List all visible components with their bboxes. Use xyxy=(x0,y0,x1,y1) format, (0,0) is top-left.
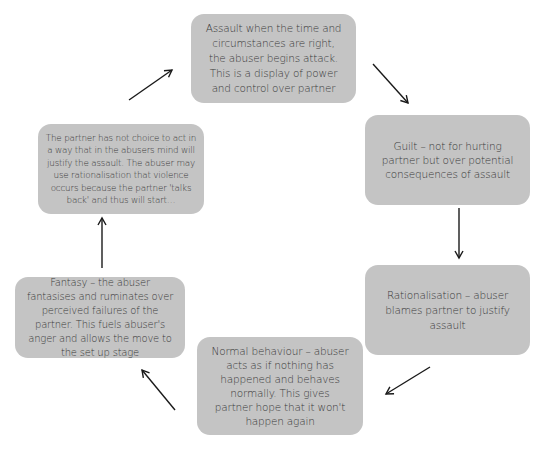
stage-assault: Assault when the time and circumstances … xyxy=(191,14,356,103)
arrow-rationalisation-to-normal xyxy=(386,367,430,394)
stage-fantasy: Fantasy – the abuser fantasises and rumi… xyxy=(15,277,185,358)
stage-set-up-text: The partner has not choice to act in a w… xyxy=(45,132,197,207)
stage-fantasy-text: Fantasy – the abuser fantasises and rumi… xyxy=(25,276,175,360)
arrow-normal-to-fantasy xyxy=(142,370,175,410)
stage-normal-behaviour-text: Normal behaviour – abuser acts as if not… xyxy=(211,344,349,428)
stage-guilt-text: Guilt – not for hurting partner but over… xyxy=(375,139,520,181)
stage-assault-text: Assault when the time and circumstances … xyxy=(205,21,342,96)
stage-rationalisation: Rationalisation – abuser blames partner … xyxy=(365,265,530,355)
stage-set-up: The partner has not choice to act in a w… xyxy=(38,124,204,214)
arrow-setup-to-assault xyxy=(129,70,172,100)
stage-guilt: Guilt – not for hurting partner but over… xyxy=(365,115,530,205)
arrow-assault-to-guilt xyxy=(373,64,408,103)
stage-normal-behaviour: Normal behaviour – abuser acts as if not… xyxy=(197,337,363,435)
stage-rationalisation-text: Rationalisation – abuser blames partner … xyxy=(381,288,514,333)
